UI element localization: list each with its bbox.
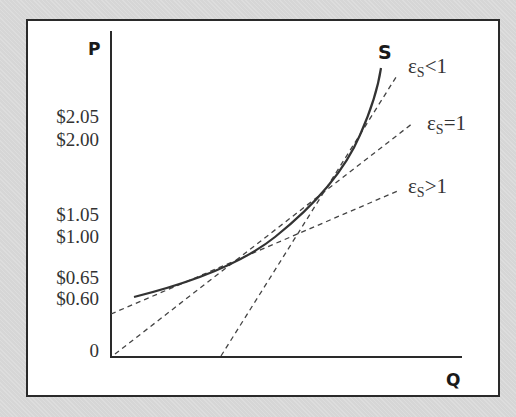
tangent-inelastic bbox=[221, 74, 398, 356]
eps-relation: <1 bbox=[425, 54, 447, 78]
label-eps-eq-1: εS=1 bbox=[427, 111, 466, 138]
p-axis-label: P bbox=[88, 39, 100, 59]
epsilon-symbol: ε bbox=[408, 54, 417, 78]
eps-relation: >1 bbox=[425, 174, 447, 198]
eps-relation: =1 bbox=[444, 111, 466, 135]
tick-2-05: $2.05 bbox=[19, 107, 99, 127]
tick-1-00: $1.00 bbox=[19, 227, 99, 247]
label-eps-lt-1: εS<1 bbox=[408, 54, 447, 81]
supply-curve bbox=[134, 68, 381, 297]
epsilon-symbol: ε bbox=[427, 111, 436, 135]
label-eps-gt-1: εS>1 bbox=[408, 174, 447, 201]
epsilon-symbol: ε bbox=[408, 174, 417, 198]
tangent-unit-elastic bbox=[115, 123, 413, 354]
tick-0-60: $0.60 bbox=[19, 289, 99, 309]
tick-1-05: $1.05 bbox=[19, 205, 99, 225]
tick-2-00: $2.00 bbox=[19, 130, 99, 150]
eps-subscript: S bbox=[417, 65, 425, 80]
eps-subscript: S bbox=[417, 185, 425, 200]
supply-label: S bbox=[378, 41, 392, 63]
tick-zero: 0 bbox=[19, 341, 99, 361]
tick-0-65: $0.65 bbox=[19, 268, 99, 288]
eps-subscript: S bbox=[436, 122, 444, 137]
tangent-elastic bbox=[111, 190, 400, 314]
q-axis-label: Q bbox=[446, 370, 460, 390]
